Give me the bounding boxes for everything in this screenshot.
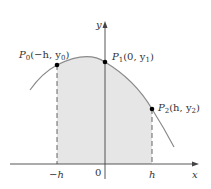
point-p1 (103, 60, 108, 65)
shaded-area (57, 57, 152, 164)
tick-label-zero: 0 (95, 167, 101, 178)
tick-label-h: h (149, 169, 155, 180)
point-label-p1: P1(0, y1) (111, 51, 154, 64)
point-label-p0: P0(−h, y0) (18, 49, 69, 62)
y-axis-arrow-icon (103, 21, 108, 28)
x-axis-label: x (192, 169, 198, 180)
point-p2 (150, 107, 155, 112)
point-p0 (55, 63, 60, 68)
point-label-p2: P2(h, y2) (157, 102, 200, 115)
tick-label-neg-h: −h (49, 169, 64, 180)
y-axis-label: y (95, 19, 102, 30)
simpson-rule-diagram: y x −h 0 h P0(−h, y0) P1(0, y1) P2(h, y2… (0, 0, 211, 189)
x-axis-arrow-icon (192, 162, 199, 167)
